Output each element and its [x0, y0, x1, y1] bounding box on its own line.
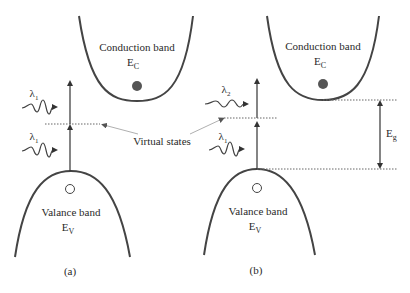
electron-dot-a	[132, 81, 142, 91]
ev-label-a: EV	[62, 221, 75, 236]
ec-label-b: EC	[314, 55, 326, 70]
valence-band-label-b: Valance band	[229, 205, 288, 217]
hole-circle-b	[253, 184, 262, 193]
photon-wave-icon-upper-b	[205, 100, 246, 107]
pointer-line-b	[190, 119, 222, 134]
virtual-states-label: Virtual states	[133, 135, 191, 147]
photon-label-lower-a: λ1	[30, 130, 39, 145]
panel-a: Conduction band EC Valance band EV λ1 λ1…	[15, 16, 193, 278]
ev-label-b: EV	[249, 220, 262, 235]
panel-caption-b: (b)	[250, 264, 263, 277]
electron-dot-b	[318, 79, 328, 89]
virtual-states-annotation: Virtual states	[104, 119, 222, 147]
photon-wave-icon-upper-a	[22, 100, 55, 114]
photon-wave-icon-lower-a	[22, 143, 55, 157]
photon-label-upper-b: λ2	[222, 83, 231, 98]
panel-caption-a: (a)	[64, 265, 77, 278]
band-gap-label: Eg	[386, 127, 397, 142]
pointer-line-a	[104, 125, 138, 134]
panel-b: Conduction band EC Valance band EV Eg λ2…	[204, 16, 398, 277]
two-photon-absorption-diagram: Conduction band EC Valance band EV λ1 λ1…	[0, 0, 410, 293]
hole-circle-a	[66, 185, 75, 194]
conduction-band-label-a: Conduction band	[99, 41, 175, 53]
valence-band-label-a: Valance band	[42, 206, 101, 218]
photon-label-upper-a: λ1	[30, 87, 39, 102]
ec-label-a: EC	[127, 56, 139, 71]
photon-label-lower-b: λ1	[219, 130, 228, 145]
conduction-band-label-b: Conduction band	[285, 40, 361, 52]
